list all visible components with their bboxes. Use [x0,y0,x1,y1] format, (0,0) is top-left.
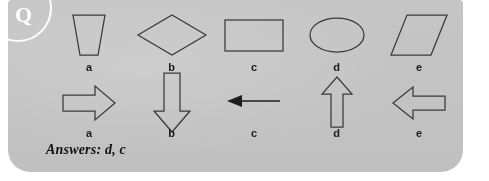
line-arrow-left-icon [225,81,283,125]
shape-option-a[interactable]: a [48,11,130,74]
arrow-option-e[interactable]: e [378,81,460,140]
badge-letter: Q [15,4,32,26]
shape-option-d[interactable]: d [296,11,378,74]
rectangle-shape [223,11,285,59]
arrow-option-a-label: a [86,127,92,140]
arrow-option-b-label: b [168,127,175,140]
block-arrow-right-icon [61,81,117,125]
shapes-row: a b c d [48,8,460,74]
shape-option-e-label: e [416,61,422,74]
shape-option-c[interactable]: c [213,11,295,74]
arrow-option-c[interactable]: c [213,81,295,140]
shape-option-b[interactable]: b [131,11,213,74]
shape-option-a-label: a [86,61,92,74]
quiz-card: Q a b c [8,0,463,172]
shape-option-d-label: d [333,61,340,74]
block-arrow-left-icon [391,81,447,125]
parallelogram-shape [389,11,449,59]
shape-option-c-label: c [251,61,257,74]
arrows-row: a b c d [48,78,460,140]
answers-text: Answers: d, c [46,142,126,158]
arrow-option-e-label: e [416,127,422,140]
arrow-option-d-label: d [333,127,340,140]
ellipse-shape [307,11,367,59]
arrow-option-c-label: c [251,127,257,140]
block-arrow-down-icon [151,81,193,125]
arrow-option-b[interactable]: b [131,81,213,140]
trapezoid-shape [66,11,112,59]
block-arrow-up-icon [319,81,355,125]
arrow-option-d[interactable]: d [296,81,378,140]
diamond-shape [136,11,208,59]
shape-option-e[interactable]: e [378,11,460,74]
arrow-option-a[interactable]: a [48,81,130,140]
